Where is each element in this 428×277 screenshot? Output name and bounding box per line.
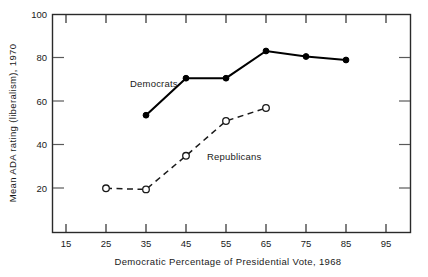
series-republicans xyxy=(103,105,270,193)
y-tick-label: 80 xyxy=(36,52,47,63)
republicans-point xyxy=(263,105,270,112)
republicans-point xyxy=(223,118,230,125)
republicans-point xyxy=(103,185,110,192)
y-axis-ticks-left xyxy=(53,58,64,189)
x-tick-label: 15 xyxy=(61,238,72,249)
republicans-point xyxy=(143,186,150,193)
plot-frame xyxy=(53,15,411,233)
republicans-series-label: Republicans xyxy=(207,151,262,162)
y-tick-label: 60 xyxy=(36,96,47,107)
y-axis-tick-labels: 100 80 60 40 20 xyxy=(31,9,47,194)
chart-svg: 100 80 60 40 20 15 25 35 45 55 65 75 85 … xyxy=(0,0,428,277)
x-axis-tick-labels: 15 25 35 45 55 65 75 85 95 xyxy=(61,238,392,249)
x-tick-label: 95 xyxy=(381,238,392,249)
y-axis-title: Mean ADA rating (liberalism), 1970 xyxy=(7,44,18,203)
x-tick-label: 75 xyxy=(301,238,312,249)
democrats-point xyxy=(223,75,229,81)
x-tick-label: 35 xyxy=(141,238,152,249)
x-tick-label: 85 xyxy=(341,238,352,249)
y-tick-label: 40 xyxy=(36,139,47,150)
x-tick-label: 55 xyxy=(221,238,232,249)
democrats-point xyxy=(183,75,189,81)
x-tick-label: 25 xyxy=(101,238,112,249)
x-tick-label: 65 xyxy=(261,238,272,249)
x-axis-ticks-top xyxy=(66,15,386,23)
democrats-point xyxy=(303,54,309,60)
y-tick-label: 100 xyxy=(31,9,47,20)
democrats-series-label: Democrats xyxy=(130,78,178,89)
chart-container: 100 80 60 40 20 15 25 35 45 55 65 75 85 … xyxy=(0,0,428,277)
x-axis-title: Democratic Percentage of Presidential Vo… xyxy=(115,256,342,267)
democrats-point xyxy=(263,48,269,54)
y-tick-label: 20 xyxy=(36,183,47,194)
y-axis-ticks-right xyxy=(399,58,410,189)
republicans-line xyxy=(106,108,266,189)
democrats-point xyxy=(143,112,149,118)
x-tick-label: 45 xyxy=(181,238,192,249)
republicans-point xyxy=(183,153,190,160)
democrats-point xyxy=(343,57,349,63)
x-axis-ticks-bottom xyxy=(66,224,386,232)
